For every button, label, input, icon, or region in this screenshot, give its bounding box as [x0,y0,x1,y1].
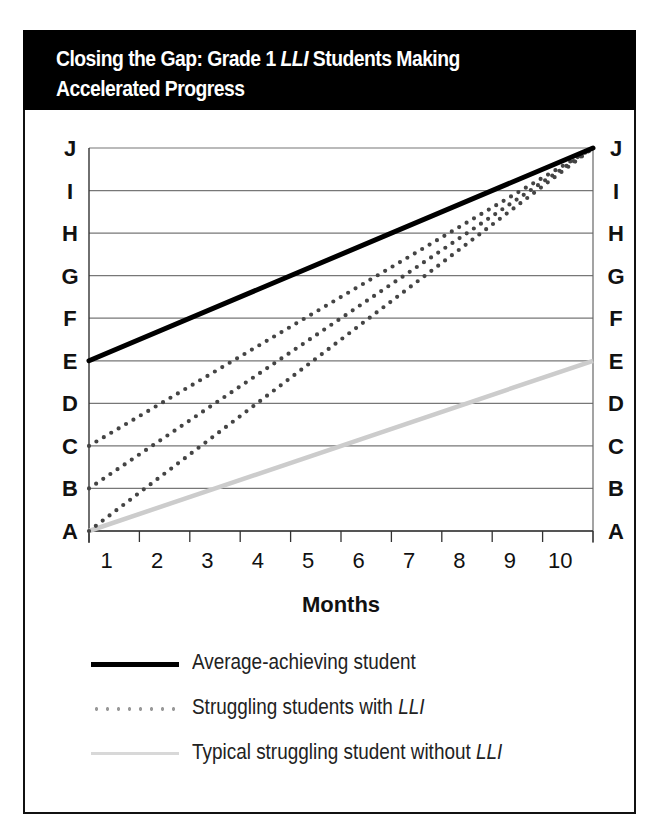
chart-legend: Average-achieving studentStruggling stud… [88,646,588,781]
x-axis-title: Months [302,592,380,617]
x-tick-label: 3 [201,548,213,573]
legend-item: Typical struggling student without LLI [88,736,588,781]
x-tick-label: 9 [504,548,516,573]
y-tick-label-right: D [608,391,624,416]
x-tick-label: 8 [453,548,465,573]
y-tick-label-left: A [62,519,78,544]
x-tick-label: 6 [353,548,365,573]
y-tick-label-right: H [608,221,624,246]
y-tick-label-left: H [62,221,78,246]
legend-swatch-icon [91,752,179,755]
y-tick-label-right: G [607,264,624,289]
x-tick-label: 7 [403,548,415,573]
x-tick-label: 2 [151,548,163,573]
y-tick-label-right: C [608,434,624,459]
legend-swatch-icon [91,662,179,667]
y-tick-label-right: F [609,306,622,331]
legend-label: Typical struggling student without LLI [192,739,502,765]
legend-item: Average-achieving student [88,646,588,691]
line-chart: 12345678910MonthsABCDEFGHIJABCDEFGHIJ [0,0,660,640]
y-tick-label-right: J [610,136,622,161]
series-line [89,148,593,446]
x-tick-label: 4 [252,548,264,573]
legend-swatch-icon [91,707,179,711]
y-tick-label-left: C [62,434,78,459]
y-tick-label-right: I [613,179,619,204]
series-line [89,148,593,531]
legend-item: Struggling students with LLI [88,691,588,736]
y-tick-label-right: E [609,349,624,374]
x-tick-label: 5 [302,548,314,573]
y-tick-label-right: B [608,476,624,501]
y-tick-label-left: F [63,306,76,331]
y-tick-label-left: B [62,476,78,501]
legend-label: Struggling students with LLI [192,694,424,720]
y-tick-label-left: G [61,264,78,289]
y-tick-label-left: D [62,391,78,416]
x-tick-label: 1 [101,548,113,573]
series-line [89,148,593,361]
legend-label: Average-achieving student [192,649,416,675]
y-tick-label-right: A [608,519,624,544]
y-tick-label-left: J [64,136,76,161]
x-tick-label: 10 [548,548,572,573]
y-tick-label-left: E [63,349,78,374]
y-tick-label-left: I [67,179,73,204]
